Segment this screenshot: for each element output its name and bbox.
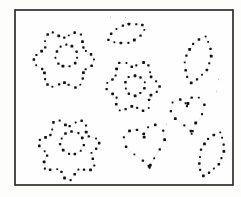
trace-dot (142, 109, 145, 112)
paper-speck (216, 91, 217, 92)
paper-speck (110, 17, 111, 18)
trace-dot (115, 68, 118, 71)
trace-dot (106, 82, 108, 84)
trace-dot (192, 43, 194, 45)
trace-dot (199, 169, 201, 171)
trace-dot (44, 46, 46, 48)
trace-dot (75, 122, 77, 124)
trace-dot (38, 145, 41, 148)
trace-dot (90, 65, 93, 68)
trace-dot (39, 139, 41, 141)
trace-dot (139, 92, 141, 94)
trace-dot (63, 81, 66, 84)
trace-dot (44, 136, 47, 139)
trace-dot (200, 148, 202, 150)
trace-dot (57, 62, 59, 64)
trace-dot (223, 143, 225, 145)
trace-dot (68, 125, 70, 127)
border-frame (15, 10, 233, 185)
trace-dot (57, 34, 60, 37)
trace-dot (60, 171, 62, 173)
trace-dot (198, 162, 201, 165)
trace-dot (154, 124, 157, 127)
trace-dot (186, 76, 188, 78)
paper-speck (218, 79, 219, 80)
trace-dot (46, 83, 49, 86)
trace-dot (44, 78, 46, 80)
trace-dot (33, 58, 36, 61)
trace-dot (76, 57, 78, 59)
trace-dot (62, 149, 65, 152)
trace-dot (77, 169, 79, 171)
trace-dot (196, 78, 198, 80)
trace-dot (92, 158, 95, 161)
trace-dot (194, 122, 197, 125)
trace-dot (89, 169, 92, 172)
trace-dot (126, 62, 128, 64)
trace-dot (51, 86, 53, 88)
trace-dot (163, 138, 166, 141)
trace-dot (142, 61, 145, 64)
trace-dot (148, 99, 150, 101)
trace-dot (220, 157, 222, 159)
trace-dot (135, 23, 137, 25)
dot-to-dot-canvas (0, 0, 241, 197)
trace-dot (208, 62, 210, 64)
trace-dot (159, 148, 161, 150)
trace-dot (185, 102, 187, 104)
trace-dot (90, 53, 93, 56)
trace-dot (80, 33, 82, 35)
trace-dot (134, 94, 137, 97)
trace-dot (209, 48, 211, 50)
trace-dot (119, 109, 121, 111)
trace-dot (59, 119, 61, 121)
trace-dot (174, 117, 177, 120)
trace-dot (81, 40, 84, 43)
trace-dot (185, 54, 187, 56)
trace-dot (35, 54, 37, 56)
trace-dot (64, 124, 67, 127)
trace-dot (43, 71, 46, 74)
trace-dot (74, 153, 77, 156)
trace-dot (98, 142, 101, 145)
trace-dot (113, 41, 115, 43)
trace-dot (221, 137, 223, 139)
trace-dot (139, 76, 141, 78)
trace-dot (63, 36, 65, 38)
trace-dot (162, 130, 164, 132)
trace-dot (63, 177, 66, 180)
trace-dot (52, 121, 55, 124)
trace-dot (110, 32, 113, 35)
trace-dot (213, 134, 216, 137)
trace-dot (93, 59, 95, 61)
trace-dot (82, 77, 84, 79)
trace-dot (207, 138, 209, 140)
trace-dot (93, 164, 95, 166)
trace-dot (54, 57, 56, 59)
trace-dot (150, 76, 153, 79)
trace-dot (85, 68, 87, 70)
trace-dot (116, 97, 118, 99)
trace-dot (133, 153, 135, 155)
trace-dot (222, 150, 225, 153)
trace-dot (153, 157, 155, 159)
trace-dot (58, 83, 60, 85)
trace-dot (207, 41, 209, 43)
trace-dot (150, 94, 153, 97)
trace-dot (120, 42, 123, 45)
trace-dot (73, 31, 76, 34)
trace-dot (143, 87, 146, 90)
trace-dot (73, 173, 76, 176)
trace-dot (184, 61, 186, 63)
worksheet-page (0, 0, 241, 197)
trace-dot (56, 50, 59, 53)
trace-dot (158, 85, 161, 88)
trace-dot (142, 133, 144, 135)
paper-speck (125, 17, 126, 18)
trace-dot (191, 133, 193, 135)
trace-dot (170, 110, 172, 112)
trace-dot (123, 136, 125, 138)
trace-dot (68, 84, 70, 86)
trace-dot (203, 142, 206, 145)
trace-dot (56, 168, 58, 170)
